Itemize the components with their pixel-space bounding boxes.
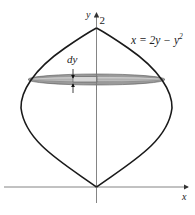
curve-equation-label: x = 2y − y2	[130, 32, 183, 47]
y-tick-label-2: 2	[100, 14, 106, 26]
left-curve	[21, 28, 97, 187]
x-axis-label: x	[181, 191, 187, 202]
right-curve	[97, 28, 173, 187]
slice-label-dy: dy	[67, 53, 78, 65]
y-axis-label: y	[85, 9, 91, 20]
solid-of-revolution-diagram: y 2 x dy x = 2y − y2	[0, 0, 195, 215]
slice-rectangle	[73, 77, 97, 83]
